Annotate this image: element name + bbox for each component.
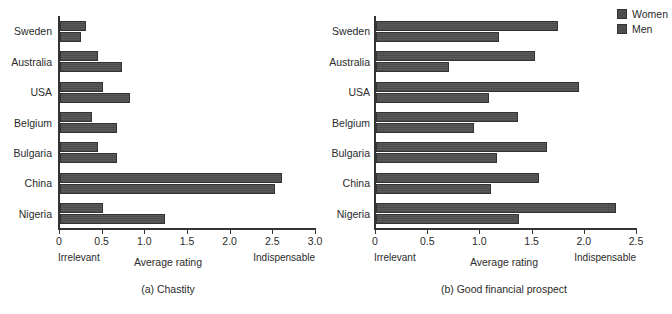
legend: WomenMen [617, 8, 668, 35]
x-axis-tick-label: 0 [56, 235, 62, 247]
x-axis-tick [230, 229, 231, 234]
bar-group [60, 77, 316, 107]
chart-panel-chastity: 00.51.01.52.02.53.0IrrelevantIndispensab… [0, 0, 336, 314]
category-label: Belgium [318, 117, 370, 129]
legend-item-men: Men [617, 23, 668, 35]
x-axis-tick [427, 229, 428, 234]
figure-root: 00.51.01.52.02.53.0IrrelevantIndispensab… [0, 0, 672, 314]
category-label: China [0, 177, 52, 189]
bar-men [376, 62, 449, 72]
x-axis-tick-label: 0 [372, 235, 378, 247]
x-axis-tick [144, 229, 145, 234]
bar-group [60, 16, 316, 46]
bar-women [376, 173, 539, 183]
bar-group [376, 199, 637, 229]
category-label: China [318, 177, 370, 189]
category-label: Sweden [0, 25, 52, 37]
plot-area-a: 00.51.01.52.02.53.0IrrelevantIndispensab… [58, 16, 316, 229]
x-axis-tick-label: 3.0 [308, 235, 323, 247]
legend-swatch-icon [617, 9, 627, 19]
bar-women [60, 173, 282, 183]
category-label: Australia [0, 56, 52, 68]
x-axis-tick [187, 229, 188, 234]
legend-swatch-icon [617, 24, 627, 34]
x-axis-tick-label: 2.0 [576, 235, 591, 247]
legend-item-women: Women [617, 8, 668, 20]
plot-area-b: 00.51.01.52.02.5IrrelevantIndispensable [374, 16, 637, 229]
bar-men [60, 62, 122, 72]
bar-women [60, 142, 98, 152]
x-axis-title-a: Average rating [0, 256, 336, 268]
legend-label: Men [632, 23, 652, 35]
legend-label: Women [632, 8, 668, 20]
category-label: Belgium [0, 117, 52, 129]
bar-men [376, 123, 474, 133]
x-axis-tick [584, 229, 585, 234]
bar-women [60, 82, 103, 92]
bar-women [376, 203, 616, 213]
x-axis-tick [315, 229, 316, 234]
bar-men [376, 93, 489, 103]
bar-group [376, 168, 637, 198]
chart-panel-financial-prospect: 00.51.01.52.02.5IrrelevantIndispensable … [336, 0, 672, 314]
panel-caption-a: (a) Chastity [0, 283, 336, 295]
x-axis-tick [375, 229, 376, 234]
bar-group [376, 107, 637, 137]
x-axis-tick-label: 1.5 [180, 235, 195, 247]
bar-men [60, 32, 81, 42]
bar-men [376, 184, 491, 194]
bar-men [376, 153, 497, 163]
bar-group [60, 168, 316, 198]
bar-group [376, 77, 637, 107]
bar-group [376, 46, 637, 76]
x-axis-tick [532, 229, 533, 234]
bar-women [60, 51, 98, 61]
x-axis-tick [102, 229, 103, 234]
x-axis-tick-label: 2.0 [222, 235, 237, 247]
bar-group [60, 46, 316, 76]
bar-men [376, 214, 519, 224]
bar-women [376, 112, 518, 122]
bar-group [60, 107, 316, 137]
bar-men [60, 184, 275, 194]
bar-women [60, 203, 103, 213]
panel-caption-b: (b) Good financial prospect [336, 283, 672, 295]
bar-women [60, 21, 86, 31]
bar-men [376, 32, 499, 42]
category-label: Australia [318, 56, 370, 68]
category-label: Sweden [318, 25, 370, 37]
category-label: USA [318, 86, 370, 98]
bar-men [60, 123, 117, 133]
category-label: USA [0, 86, 52, 98]
x-axis-tick [272, 229, 273, 234]
bar-men [60, 93, 130, 103]
x-axis-tick-label: 0.5 [420, 235, 435, 247]
bar-men [60, 153, 117, 163]
category-label: Bulgaria [0, 147, 52, 159]
x-axis-tick-label: 1.5 [524, 235, 539, 247]
x-axis-tick [636, 229, 637, 234]
bar-group [376, 16, 637, 46]
x-axis-tick [59, 229, 60, 234]
bar-women [60, 112, 92, 122]
bar-women [376, 51, 535, 61]
bar-men [60, 214, 165, 224]
x-axis-tick-label: 1.0 [137, 235, 152, 247]
x-axis-tick [479, 229, 480, 234]
bar-group [60, 199, 316, 229]
category-label: Nigeria [0, 208, 52, 220]
bar-women [376, 142, 547, 152]
category-label: Bulgaria [318, 147, 370, 159]
bar-group [376, 138, 637, 168]
category-label: Nigeria [318, 208, 370, 220]
x-axis-title-b: Average rating [336, 256, 672, 268]
x-axis-tick-label: 2.5 [265, 235, 280, 247]
x-axis-tick-label: 1.0 [472, 235, 487, 247]
x-axis-tick-label: 2.5 [629, 235, 644, 247]
x-axis-tick-label: 0.5 [94, 235, 109, 247]
bar-women [376, 82, 579, 92]
bar-group [60, 138, 316, 168]
bar-women [376, 21, 558, 31]
